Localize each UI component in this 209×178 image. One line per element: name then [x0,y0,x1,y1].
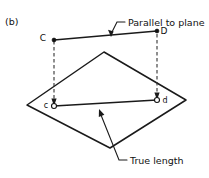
callout-true-length: True length [129,155,183,166]
leader-arrow-true-length [99,109,105,117]
point-marker-c [52,104,57,109]
line-CD-upper [54,31,157,40]
callout-parallel-to-plane: Parallel to plane [128,17,205,28]
label-point-d: d [162,96,167,105]
point-marker-C [52,38,56,42]
point-marker-d [155,98,160,103]
line-cd-lower [54,100,157,106]
label-point-C: C [40,33,46,43]
leader-parallel-to-plane [112,22,125,32]
label-point-c: c [44,101,48,110]
leader-true-length [101,115,127,160]
point-marker-D [155,29,159,33]
figure-container: (b) C D c d Parallel to plane True lengt… [0,0,209,178]
part-label: (b) [5,16,18,27]
